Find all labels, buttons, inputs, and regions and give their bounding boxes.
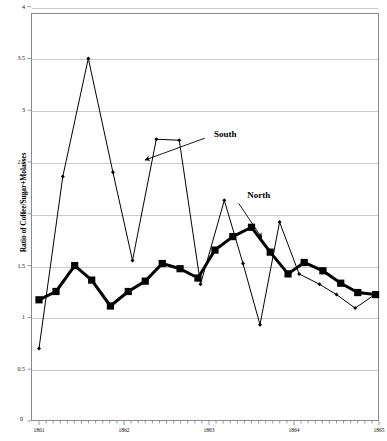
data-point-marker-square: [319, 267, 326, 274]
data-point-marker-square: [35, 296, 42, 303]
data-point-marker-square: [284, 270, 291, 277]
data-point-marker-diamond: [61, 175, 65, 179]
chart-container: 0.511.522.533.54 18611862186318641865 0 …: [0, 0, 387, 441]
data-point-marker-square: [354, 289, 361, 296]
data-point-marker-diamond: [37, 346, 41, 350]
data-point-marker-square: [142, 278, 149, 285]
data-point-marker-diamond: [222, 198, 226, 202]
data-point-marker-diamond: [278, 220, 282, 224]
data-point-marker-square: [52, 288, 59, 295]
data-point-marker-square: [177, 265, 184, 272]
data-point-marker-diamond: [86, 56, 90, 60]
series-south: [37, 56, 377, 350]
data-point-marker-diamond: [297, 272, 301, 276]
data-point-marker-diamond: [241, 262, 245, 266]
data-point-marker-diamond: [131, 258, 135, 262]
data-point-marker-diamond: [154, 137, 158, 141]
data-point-marker-square: [71, 262, 78, 269]
data-point-marker-diamond: [199, 282, 203, 286]
series-line-south: [39, 58, 375, 348]
data-point-marker-square: [229, 233, 236, 240]
data-point-marker-square: [267, 249, 274, 256]
data-point-marker-diamond: [177, 138, 181, 142]
data-point-marker-square: [337, 280, 344, 287]
data-point-marker-diamond: [258, 323, 262, 327]
series-line-north: [39, 227, 376, 306]
series-north: [35, 224, 379, 310]
data-point-marker-square: [301, 259, 308, 266]
series-label-south: South: [214, 129, 237, 139]
data-point-marker-square: [107, 302, 114, 309]
data-point-marker-square: [372, 291, 379, 298]
series-label-north: North: [247, 190, 270, 200]
data-point-marker-square: [159, 260, 166, 267]
data-point-marker-square: [88, 277, 95, 284]
data-point-marker-square: [211, 246, 218, 253]
data-point-marker-square: [194, 274, 201, 281]
data-point-marker-square: [248, 224, 255, 231]
data-point-marker-diamond: [111, 170, 115, 174]
data-point-marker-square: [125, 288, 132, 295]
chart-series-layer: [0, 0, 387, 441]
